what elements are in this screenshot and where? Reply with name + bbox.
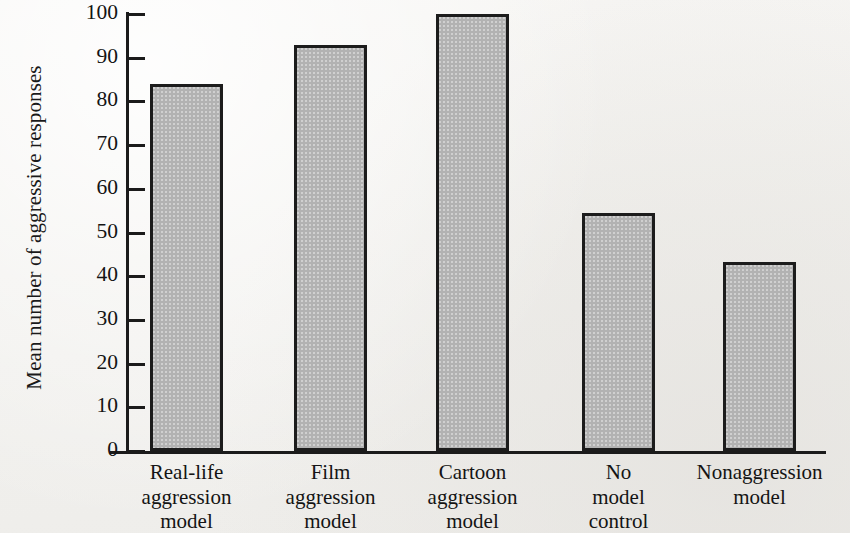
x-axis-line xyxy=(110,451,826,454)
y-axis-tick-label: 90 xyxy=(58,44,118,69)
y-axis-tick xyxy=(129,450,145,453)
y-axis-tick-label: 100 xyxy=(58,0,118,25)
category-label-5: Nonaggressionmodel xyxy=(660,460,850,509)
category-label-line: model xyxy=(660,485,850,510)
y-axis-tick xyxy=(129,319,145,322)
bar-4 xyxy=(582,213,655,451)
y-axis-tick xyxy=(129,275,145,278)
y-axis-tick-label: 60 xyxy=(58,175,118,200)
y-axis-tick-label: 70 xyxy=(58,131,118,156)
y-axis-tick xyxy=(129,100,145,103)
y-axis-tick xyxy=(129,406,145,409)
y-axis-tick-label: 10 xyxy=(58,393,118,418)
category-label-line: control xyxy=(519,509,719,533)
bar-2 xyxy=(294,45,367,451)
y-axis-title: Mean number of aggressive responses xyxy=(22,8,47,448)
bar-1 xyxy=(150,84,223,451)
y-axis-tick-label: 50 xyxy=(58,219,118,244)
category-label-line: Nonaggression xyxy=(660,460,850,485)
y-axis-tick-label: 20 xyxy=(58,350,118,375)
bar-3 xyxy=(436,14,509,451)
y-axis-tick xyxy=(129,144,145,147)
y-axis-tick xyxy=(129,188,145,191)
y-axis-tick xyxy=(129,57,145,60)
y-axis-tick-label: 80 xyxy=(58,87,118,112)
bar-chart-figure: Mean number of aggressive responses 0102… xyxy=(0,0,850,533)
bar-5 xyxy=(723,262,796,451)
y-axis-tick-label: 40 xyxy=(58,262,118,287)
y-axis-tick-label: 30 xyxy=(58,306,118,331)
y-axis-tick xyxy=(129,363,145,366)
y-axis-tick xyxy=(129,13,145,16)
y-axis-tick xyxy=(129,232,145,235)
y-axis-tick-label: 0 xyxy=(58,437,118,462)
